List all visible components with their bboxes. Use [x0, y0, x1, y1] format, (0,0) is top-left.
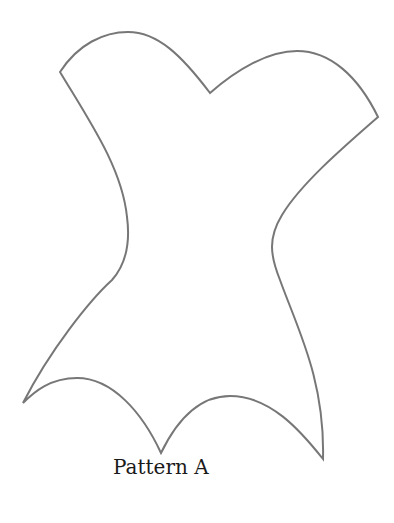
pattern-outline	[23, 32, 378, 459]
pattern-diagram	[0, 0, 394, 523]
pattern-label: Pattern A	[113, 455, 209, 479]
